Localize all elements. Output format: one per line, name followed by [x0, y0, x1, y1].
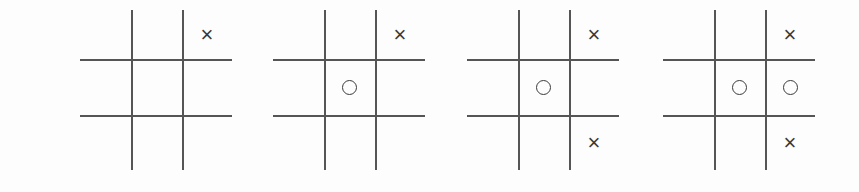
cell-r2-c0[interactable]: [273, 115, 324, 170]
cell-r1-c0[interactable]: [80, 59, 131, 115]
cell-r1-c1[interactable]: [518, 59, 569, 115]
cell-r1-c0[interactable]: [663, 59, 714, 115]
cell-r1-c1[interactable]: [131, 59, 182, 115]
cell-r0-c1[interactable]: [714, 10, 765, 59]
cell-r0-c0[interactable]: [467, 10, 518, 59]
board-4[interactable]: ××: [663, 0, 815, 192]
cell-r2-c2[interactable]: ×: [569, 115, 619, 170]
cell-r2-c1[interactable]: [714, 115, 765, 170]
mark-x-icon: ×: [588, 132, 601, 154]
cell-r0-c1[interactable]: [324, 10, 375, 59]
mark-x-icon: ×: [784, 24, 797, 46]
cell-r1-c2[interactable]: [765, 59, 815, 115]
mark-o-icon: [342, 80, 357, 95]
mark-o-icon: [536, 80, 551, 95]
mark-x-icon: ×: [394, 24, 407, 46]
cell-r0-c2[interactable]: ×: [182, 10, 232, 59]
cell-r1-c2[interactable]: [569, 59, 619, 115]
cell-r1-c2[interactable]: [182, 59, 232, 115]
cell-r1-c0[interactable]: [273, 59, 324, 115]
cell-r0-c1[interactable]: [131, 10, 182, 59]
cell-r1-c1[interactable]: [714, 59, 765, 115]
cell-r0-c2[interactable]: ×: [569, 10, 619, 59]
mark-x-icon: ×: [784, 132, 797, 154]
cell-r2-c2[interactable]: ×: [765, 115, 815, 170]
cell-r2-c2[interactable]: [182, 115, 232, 170]
cell-r2-c1[interactable]: [518, 115, 569, 170]
board-2[interactable]: ×: [273, 0, 425, 192]
cell-r1-c2[interactable]: [375, 59, 425, 115]
cell-r2-c1[interactable]: [131, 115, 182, 170]
mark-x-icon: ×: [588, 24, 601, 46]
board-1[interactable]: ×: [80, 0, 232, 192]
mark-o-icon: [732, 80, 747, 95]
cell-r0-c2[interactable]: ×: [375, 10, 425, 59]
cell-r1-c1[interactable]: [324, 59, 375, 115]
cell-r2-c1[interactable]: [324, 115, 375, 170]
cell-r0-c0[interactable]: [273, 10, 324, 59]
board-3[interactable]: ××: [467, 0, 619, 192]
mark-o-icon: [783, 80, 798, 95]
tic-tac-toe-board-strip: ××××××: [0, 0, 859, 192]
mark-x-icon: ×: [201, 24, 214, 46]
cell-r0-c0[interactable]: [80, 10, 131, 59]
cell-r2-c2[interactable]: [375, 115, 425, 170]
cell-r2-c0[interactable]: [663, 115, 714, 170]
cell-r0-c2[interactable]: ×: [765, 10, 815, 59]
cell-r2-c0[interactable]: [467, 115, 518, 170]
cell-r0-c0[interactable]: [663, 10, 714, 59]
cell-r1-c0[interactable]: [467, 59, 518, 115]
cell-r0-c1[interactable]: [518, 10, 569, 59]
cell-r2-c0[interactable]: [80, 115, 131, 170]
